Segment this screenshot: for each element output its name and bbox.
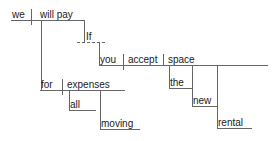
word-modifier-moving: moving — [101, 118, 133, 129]
word-modifier-new: new — [193, 95, 211, 106]
word-modifier-rental: rental — [218, 117, 243, 128]
word-preposition-for: for — [41, 79, 53, 90]
sentence-diagram: we will pay for expenses all moving If y… — [0, 0, 275, 141]
word-predicate: will pay — [40, 9, 73, 20]
word-object-expenses: expenses — [67, 79, 110, 90]
word-sub-verb-accept: accept — [128, 54, 157, 65]
word-modifier-all: all — [70, 99, 80, 110]
word-subject: we — [12, 9, 25, 20]
word-conjunction-if: If — [86, 31, 92, 42]
word-sub-object-space: space — [168, 54, 195, 65]
word-modifier-the: the — [170, 77, 184, 88]
word-sub-subject-you: you — [100, 54, 116, 65]
